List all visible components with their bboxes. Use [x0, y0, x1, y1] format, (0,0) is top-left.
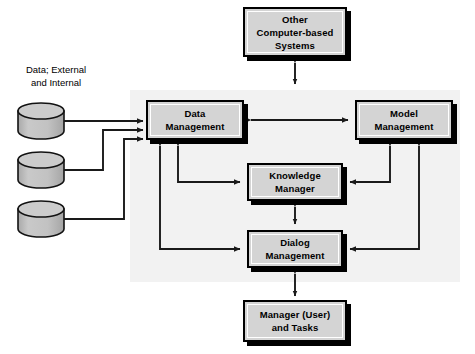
manager-user-and-tasks-inner: Manager (User) and Tasks [247, 304, 343, 338]
other-computer-based-systems-inner: Other Computer-based Systems [247, 11, 343, 53]
data-store-external-3 [18, 201, 64, 237]
data-management-inner: Data Management [150, 104, 240, 136]
dialog-management-label: Dialog Management [265, 236, 324, 262]
knowledge-manager-box[interactable]: Knowledge Manager [247, 163, 343, 201]
manager-user-and-tasks-label: Manager (User) and Tasks [260, 308, 331, 334]
dialog-management-box[interactable]: Dialog Management [247, 230, 343, 268]
dialog-management-inner: Dialog Management [251, 234, 339, 264]
model-management-label: Model Management [374, 107, 433, 133]
data-store-external-2 [18, 152, 64, 188]
data-sources-caption: Data; External and Internal [8, 64, 104, 89]
data-management-label: Data Management [165, 107, 224, 133]
diagram-vector-layer [0, 0, 475, 354]
knowledge-manager-inner: Knowledge Manager [251, 167, 339, 197]
model-management-inner: Model Management [359, 104, 449, 136]
other-computer-based-systems-box[interactable]: Other Computer-based Systems [243, 7, 347, 57]
knowledge-manager-label: Knowledge Manager [269, 169, 321, 195]
data-store-external-1 [18, 103, 64, 139]
data-management-box[interactable]: Data Management [146, 100, 244, 140]
other-computer-based-systems-label: Other Computer-based Systems [257, 13, 334, 52]
model-management-box[interactable]: Model Management [355, 100, 453, 140]
manager-user-and-tasks-box[interactable]: Manager (User) and Tasks [243, 300, 347, 342]
diagram-canvas: Data; External and Internal Other Comput… [0, 0, 475, 354]
